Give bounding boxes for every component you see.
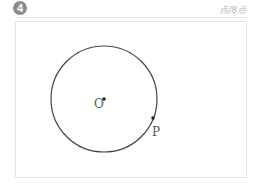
circle-diagram: O P (0, 0, 254, 188)
point-p-label: P (152, 125, 160, 139)
point-p (151, 116, 155, 120)
center-label: O (94, 97, 104, 111)
